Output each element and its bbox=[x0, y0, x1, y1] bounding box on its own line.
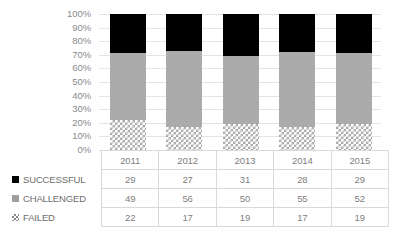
y-axis-tick-label: 50% bbox=[72, 77, 91, 87]
bar-segment-challenged-2015 bbox=[336, 53, 372, 124]
table-cell: 55 bbox=[274, 189, 331, 208]
bar-segment-failed-2012 bbox=[166, 127, 202, 150]
bar-column-2015 bbox=[336, 14, 372, 150]
bar-segment-challenged-2013 bbox=[223, 56, 259, 124]
legend-item-label: SUCCESSFUL bbox=[23, 174, 85, 185]
bar-segment-challenged-2014 bbox=[279, 52, 315, 127]
table-cell: 22 bbox=[102, 208, 159, 227]
legend-item-inner: SUCCESSFUL bbox=[12, 174, 101, 185]
y-axis-tick-label: 80% bbox=[72, 36, 91, 46]
table-cell: 28 bbox=[274, 170, 331, 189]
bar-segment-challenged-2011 bbox=[110, 53, 146, 120]
table-column-header: 2012 bbox=[159, 151, 216, 170]
table-row: FAILED2217191719 bbox=[10, 208, 388, 227]
table-cell: 49 bbox=[102, 189, 159, 208]
table-column-header: 2014 bbox=[274, 151, 331, 170]
table-header-row: 20112012201320142015 bbox=[10, 151, 388, 170]
bar-segment-successful-2011 bbox=[110, 14, 146, 53]
table-row: CHALLENGED4956505552 bbox=[10, 189, 388, 208]
table-cell: 17 bbox=[159, 208, 216, 227]
y-axis-tick-label: 100% bbox=[67, 9, 91, 19]
bar-column-2012 bbox=[166, 14, 202, 150]
bar-segment-successful-2014 bbox=[279, 14, 315, 52]
legend-marker-failed-icon bbox=[12, 214, 19, 221]
table-column-header: 2011 bbox=[102, 151, 159, 170]
bar-segment-challenged-2012 bbox=[166, 51, 202, 127]
y-axis-tick-label: 20% bbox=[72, 118, 91, 128]
stacked-bar-chart: 100%90%80%70%60%50%40%30%20%10%0% 201120… bbox=[0, 0, 394, 229]
legend-marker-successful-icon bbox=[12, 176, 19, 183]
legend-item-failed: FAILED bbox=[10, 208, 102, 227]
bar-segment-successful-2013 bbox=[223, 14, 259, 56]
plot-area bbox=[99, 14, 381, 150]
bar-segment-failed-2015 bbox=[336, 124, 372, 150]
legend-item-successful: SUCCESSFUL bbox=[10, 170, 102, 189]
table-cell: 52 bbox=[331, 189, 388, 208]
table-cell: 31 bbox=[216, 170, 273, 189]
legend-item-challenged: CHALLENGED bbox=[10, 189, 102, 208]
legend-item-label: CHALLENGED bbox=[23, 193, 86, 204]
legend-item-inner: FAILED bbox=[12, 212, 101, 223]
table-cell: 17 bbox=[274, 208, 331, 227]
bar-segment-failed-2013 bbox=[223, 124, 259, 150]
legend-item-label: FAILED bbox=[23, 212, 55, 223]
bar-segment-successful-2015 bbox=[336, 14, 372, 53]
y-axis-tick-label: 10% bbox=[72, 131, 91, 141]
data-table-body: 20112012201320142015SUCCESSFUL2927312829… bbox=[10, 151, 388, 227]
table-cell: 56 bbox=[159, 189, 216, 208]
bar-segment-failed-2014 bbox=[279, 127, 315, 150]
legend-item-inner: CHALLENGED bbox=[12, 193, 101, 204]
table-cell: 50 bbox=[216, 189, 273, 208]
bar-segment-failed-2011 bbox=[110, 120, 146, 150]
table-column-header: 2013 bbox=[216, 151, 273, 170]
table-cell: 19 bbox=[216, 208, 273, 227]
y-axis-tick-label: 30% bbox=[72, 104, 91, 114]
bar-column-2013 bbox=[223, 14, 259, 150]
bar-column-2011 bbox=[110, 14, 146, 150]
table-column-header: 2015 bbox=[331, 151, 388, 170]
bar-column-2014 bbox=[279, 14, 315, 150]
y-axis: 100%90%80%70%60%50%40%30%20%10%0% bbox=[50, 14, 95, 150]
table-cell: 27 bbox=[159, 170, 216, 189]
y-axis-tick-label: 70% bbox=[72, 50, 91, 60]
table-row: SUCCESSFUL2927312829 bbox=[10, 170, 388, 189]
y-axis-tick-label: 90% bbox=[72, 23, 91, 33]
y-axis-tick-label: 60% bbox=[72, 63, 91, 73]
bar-segment-successful-2012 bbox=[166, 14, 202, 51]
legend-marker-challenged-icon bbox=[12, 195, 19, 202]
data-table: 20112012201320142015SUCCESSFUL2927312829… bbox=[10, 150, 389, 227]
y-axis-tick-label: 40% bbox=[72, 91, 91, 101]
table-corner-cell bbox=[10, 151, 102, 170]
table-cell: 19 bbox=[331, 208, 388, 227]
table-cell: 29 bbox=[102, 170, 159, 189]
table-cell: 29 bbox=[331, 170, 388, 189]
